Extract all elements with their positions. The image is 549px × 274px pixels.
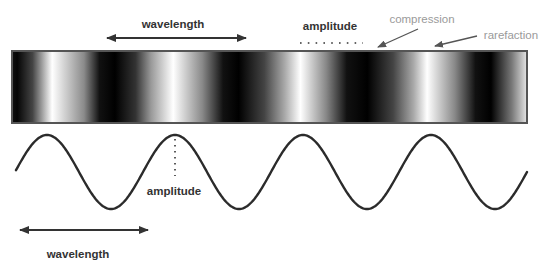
- rarefaction-label: rarefaction: [484, 29, 538, 41]
- wave-amplitude-label: amplitude: [147, 185, 201, 197]
- top-amplitude-label: amplitude: [303, 20, 357, 32]
- bottom-wavelength-label: wavelength: [46, 248, 110, 260]
- top-wavelength-label: wavelength: [141, 18, 205, 30]
- compression-label: compression: [389, 13, 454, 25]
- compression-arrow: [378, 29, 418, 47]
- wave-diagram: wavelength amplitude compression rarefac…: [0, 0, 549, 274]
- transverse-sine-wave: [16, 135, 527, 209]
- rarefaction-arrow: [435, 36, 477, 46]
- longitudinal-wave-bar: [12, 51, 527, 123]
